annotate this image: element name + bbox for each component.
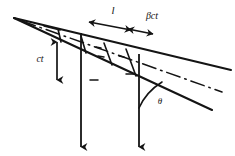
figure-canvas: l βct ct θ xyxy=(0,0,235,156)
interior-dash xyxy=(98,56,104,57)
label-ct: ct xyxy=(36,53,43,64)
label-path-length: l xyxy=(111,4,114,16)
interior-dash xyxy=(96,47,101,48)
interior-dash xyxy=(119,56,124,57)
beaming-geometry-diagram: l βct ct θ xyxy=(0,0,235,156)
label-beta-ct: βct xyxy=(145,10,158,21)
label-theta: θ xyxy=(158,96,163,106)
